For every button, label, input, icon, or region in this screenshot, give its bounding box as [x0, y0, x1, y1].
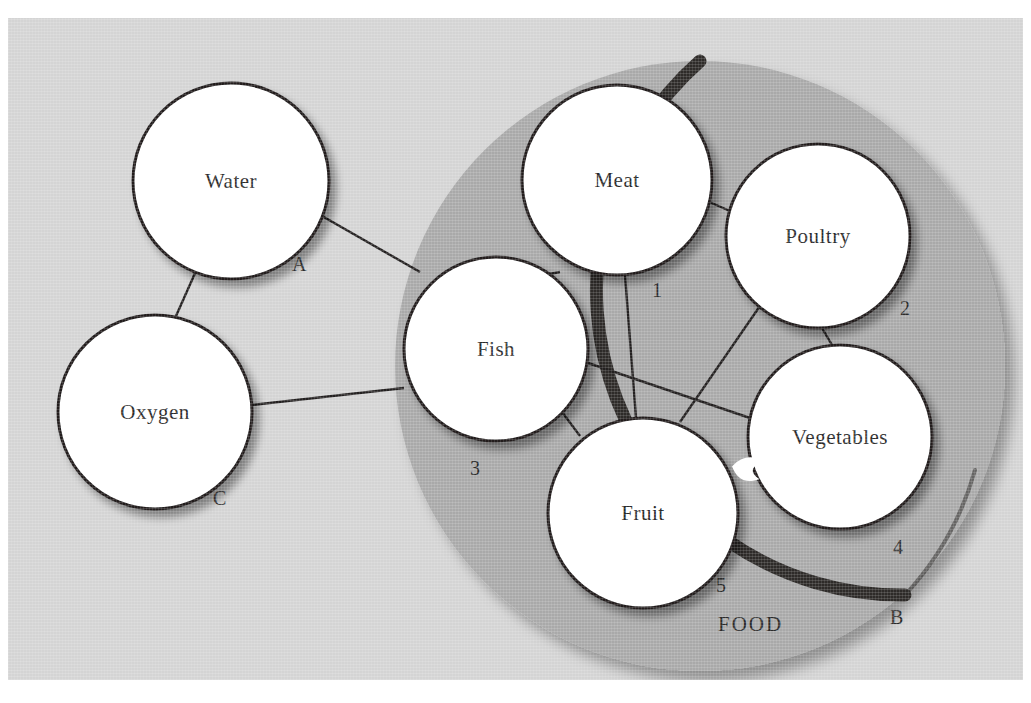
- node-water[interactable]: [133, 83, 329, 279]
- node-oxygen[interactable]: [58, 315, 252, 509]
- edge-water-oxygen: [176, 271, 196, 316]
- node-fruit[interactable]: [548, 418, 738, 608]
- diagram-canvas: Water A Oxygen C Meat 1 Poultry 2 Fish 3…: [0, 0, 1031, 703]
- node-vegetables[interactable]: [748, 345, 932, 529]
- edge-oxygen-food: [252, 388, 404, 405]
- node-meat[interactable]: [522, 85, 712, 275]
- node-fish[interactable]: [404, 257, 588, 441]
- node-poultry[interactable]: [726, 144, 910, 328]
- edge-water-food: [322, 216, 420, 272]
- diagram-svg: [0, 0, 1031, 703]
